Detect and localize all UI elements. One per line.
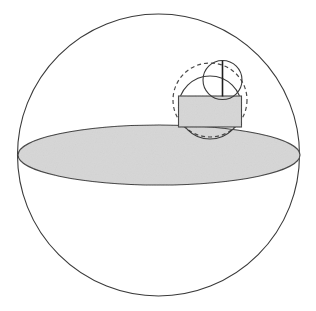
equatorial-disk-ellipse bbox=[18, 125, 300, 185]
inner-cylinder-rect bbox=[179, 96, 242, 127]
geometry-diagram bbox=[0, 0, 316, 311]
geometric-figure-container bbox=[0, 0, 316, 311]
